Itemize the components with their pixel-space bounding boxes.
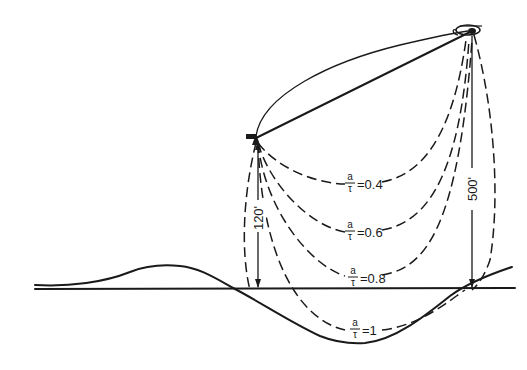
- dimension-label-500: 500': [465, 177, 480, 201]
- label-a-0.6: a τ =0.6: [345, 219, 383, 242]
- outer-arc: [256, 31, 468, 136]
- svg-text:τ: τ: [348, 183, 352, 194]
- label-a-1: a τ =1: [350, 317, 377, 340]
- svg-text:a: a: [347, 219, 353, 230]
- svg-text:a: a: [352, 317, 358, 328]
- svg-text:=0.6: =0.6: [357, 225, 383, 240]
- trajectory-a-0.6: [258, 40, 469, 232]
- diagram-canvas: 120' 500' a τ =0.4 a τ =: [0, 0, 527, 370]
- reference-horizontal-line: [35, 288, 515, 289]
- pickup-point-icon: [246, 134, 260, 145]
- svg-text:=0.4: =0.4: [357, 177, 383, 192]
- svg-text:a: a: [350, 265, 356, 276]
- svg-text:τ: τ: [353, 329, 357, 340]
- trajectory-right-outer: [472, 35, 495, 290]
- dimension-label-120: 120': [251, 206, 266, 230]
- svg-text:τ: τ: [348, 231, 352, 242]
- svg-text:=1: =1: [362, 323, 377, 338]
- svg-text:=0.8: =0.8: [360, 271, 386, 286]
- svg-text:τ: τ: [351, 277, 355, 288]
- svg-text:a: a: [347, 171, 353, 182]
- dimension-arrow-bottom-left: [255, 279, 261, 288]
- trajectory-diagram: 120' 500' a τ =0.4 a τ =: [0, 0, 527, 370]
- trajectory-a-0.4: [258, 40, 466, 184]
- label-a-0.8: a τ =0.8: [348, 265, 386, 288]
- terrain-profile: [35, 265, 512, 343]
- trajectory-a-0.8: [258, 40, 472, 276]
- label-a-0.4: a τ =0.4: [345, 171, 383, 194]
- direct-line: [256, 32, 470, 138]
